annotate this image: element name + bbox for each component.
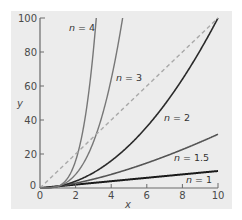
x-tick-label-2: 2: [72, 190, 78, 201]
y-axis-label: y: [16, 98, 24, 109]
x-tick-label-4: 4: [108, 190, 114, 201]
y-tick-label-100: 100: [18, 13, 37, 24]
curve-label-n2: n = 2: [164, 112, 190, 123]
curve-label-n1: n = 1: [186, 174, 212, 185]
y-tick-label-60: 60: [24, 81, 37, 92]
x-tick-label-0: 0: [37, 190, 43, 201]
power-curves-chart: 100 80 60 40 20 0 0 2 4 6 8 10 x y n = 4…: [0, 0, 242, 220]
y-tick-label-0: 0: [30, 180, 36, 191]
curve-label-n15: n = 1.5: [174, 152, 209, 163]
y-tick-label-80: 80: [24, 47, 37, 58]
x-tick-label-6: 6: [144, 190, 150, 201]
y-tick-label-40: 40: [24, 115, 37, 126]
curve-label-n3: n = 3: [116, 72, 142, 83]
x-tick-label-10: 10: [212, 190, 225, 201]
x-axis-label: x: [124, 199, 131, 210]
y-tick-label-20: 20: [24, 149, 37, 160]
curve-label-n4: n = 4: [69, 22, 95, 33]
x-tick-label-8: 8: [179, 190, 185, 201]
